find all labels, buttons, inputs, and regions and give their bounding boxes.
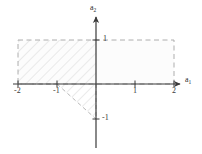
x-tick-label-1: 1: [133, 87, 137, 95]
x-tick-label-neg1: -1: [53, 87, 60, 95]
x-tick-label-neg2: -2: [14, 87, 21, 95]
x-axis-label-subscript: 1: [189, 79, 192, 85]
coordinate-plot-figure: -2 -1 1 2 1 -1 a2 a1: [0, 0, 202, 154]
y-tick-label-1: 1: [103, 35, 107, 43]
x-tick-label-2: 2: [172, 87, 176, 95]
x-axis-label: a1: [185, 76, 191, 84]
y-axis-label-subscript: 2: [94, 7, 97, 13]
y-tick-label-neg1: -1: [102, 114, 109, 122]
plot-canvas: [0, 0, 202, 154]
hatched-region: [18, 40, 96, 119]
y-axis-label: a2: [90, 4, 96, 12]
